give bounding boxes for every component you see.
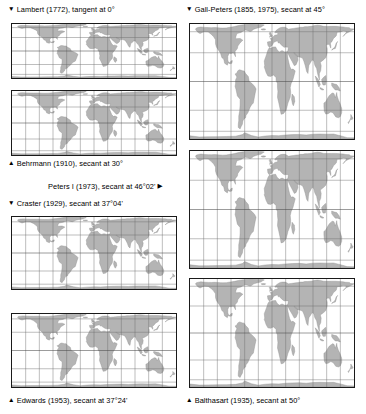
caption-balthasart-text: Balthasart (1935), secant at 50°	[195, 396, 301, 405]
caption-behrmann-text: Behrmann (1910), secant at 30°	[17, 159, 123, 168]
map-balthasart[interactable]	[189, 278, 355, 388]
map-behrmann[interactable]	[11, 90, 177, 156]
caption-lambert-text: Lambert (1772), tangent at 0°	[17, 5, 115, 14]
map-lambert[interactable]	[11, 23, 177, 79]
caption-craster: ▼ Craster (1929), secant at 37°04'	[0, 198, 123, 208]
triangle-up-icon: ▲	[186, 395, 193, 405]
projection-comparison-figure: ▼ Lambert (1772), tangent at 0° ▲ Behrma…	[0, 0, 366, 414]
triangle-up-icon: ▲	[8, 395, 15, 405]
caption-peters-i-text: Peters I (1973), secant at 46°02'	[48, 182, 156, 191]
caption-gall-peters-text: Gall-Peters (1855, 1975), secant at 45°	[195, 5, 325, 14]
caption-edwards: ▲ Edwards (1953), secant at 37°24'	[0, 395, 127, 405]
triangle-right-icon: ▶	[158, 181, 163, 191]
map-gall-peters[interactable]	[189, 23, 355, 140]
triangle-down-icon: ▼	[8, 4, 15, 14]
map-craster[interactable]	[11, 216, 177, 290]
triangle-up-icon: ▲	[8, 158, 15, 168]
caption-balthasart: ▲ Balthasart (1935), secant at 50°	[186, 395, 300, 405]
triangle-down-icon: ▼	[186, 4, 193, 14]
triangle-down-icon: ▼	[8, 198, 15, 208]
caption-craster-text: Craster (1929), secant at 37°04'	[17, 199, 123, 208]
map-peters-i[interactable]	[189, 150, 355, 269]
caption-gall-peters: ▼ Gall-Peters (1855, 1975), secant at 45…	[186, 4, 325, 14]
map-edwards[interactable]	[11, 313, 177, 388]
caption-lambert: ▼ Lambert (1772), tangent at 0°	[0, 4, 115, 14]
caption-behrmann: ▲ Behrmann (1910), secant at 30°	[0, 158, 123, 168]
caption-edwards-text: Edwards (1953), secant at 37°24'	[17, 396, 128, 405]
